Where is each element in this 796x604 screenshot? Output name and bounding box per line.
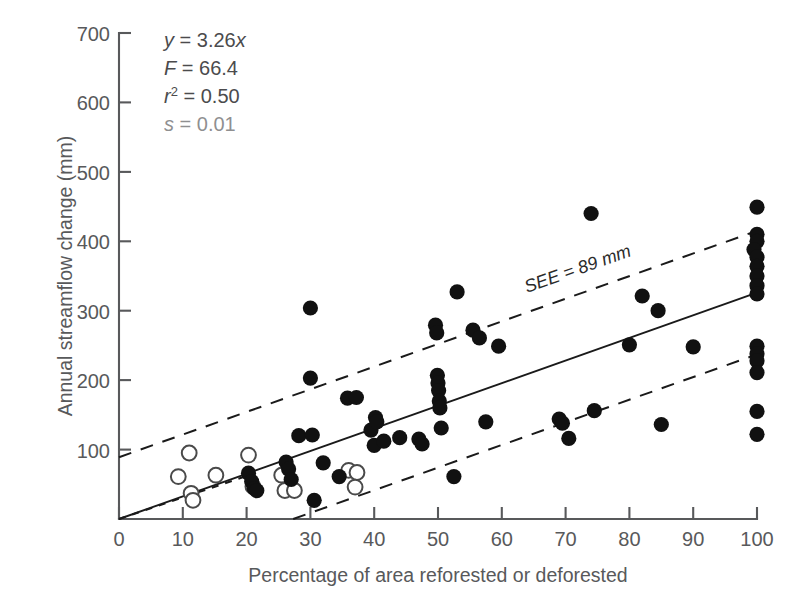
data-point [349, 390, 364, 405]
see-band-lower-line [293, 354, 757, 519]
stat-f: F = 66.4 [164, 57, 238, 79]
y-ticklabel-100: 100 [77, 440, 110, 462]
data-point [749, 200, 764, 215]
x-ticklabel-50: 50 [427, 528, 449, 550]
data-point [749, 404, 764, 419]
data-point [749, 427, 764, 442]
data-point [622, 337, 637, 352]
data-point [376, 434, 391, 449]
data-point [587, 403, 602, 418]
data-point [350, 465, 365, 480]
data-point [303, 371, 318, 386]
data-point [305, 427, 320, 442]
y-ticklabel-500: 500 [77, 162, 110, 184]
y-ticklabel-200: 200 [77, 370, 110, 392]
data-point [332, 469, 347, 484]
data-point [654, 417, 669, 432]
data-point [472, 330, 487, 345]
stats-annotation: y = 3.26x F = 66.4 r2 = 0.50 s = 0.01 [162, 29, 247, 135]
stat-significance: s = 0.01 [164, 113, 236, 135]
data-point [749, 286, 764, 301]
stat-r-squared: r2 = 0.50 [164, 84, 240, 108]
data-point [348, 480, 363, 495]
data-point [303, 300, 318, 315]
y-axis-title: Annual streamflow change (mm) [54, 136, 76, 417]
see-band-label: SEE = 89 mm [522, 241, 634, 297]
data-point [635, 288, 650, 303]
y-ticklabel-300: 300 [77, 301, 110, 323]
x-ticklabel-90: 90 [682, 528, 704, 550]
x-ticklabel-80: 80 [618, 528, 640, 550]
x-ticklabel-60: 60 [491, 528, 513, 550]
x-axis-ticks: 0 10 20 30 40 50 60 70 80 90 100 [113, 507, 773, 550]
data-point [651, 303, 666, 318]
data-point [171, 469, 186, 484]
stat-equation: y = 3.26x [162, 29, 247, 51]
x-ticklabel-100: 100 [740, 528, 773, 550]
x-ticklabel-10: 10 [172, 528, 194, 550]
data-point [291, 428, 306, 443]
data-point [241, 448, 256, 463]
data-point [429, 325, 444, 340]
y-ticklabel-700: 700 [77, 23, 110, 45]
data-point [415, 436, 430, 451]
data-point [478, 414, 493, 429]
x-axis-title: Percentage of area reforested or defores… [248, 564, 627, 586]
data-point [446, 469, 461, 484]
y-ticklabel-400: 400 [77, 231, 110, 253]
data-point [491, 339, 506, 354]
data-point [284, 472, 299, 487]
y-axis-ticks: 700 600 500 400 300 200 100 [77, 23, 131, 462]
data-point [749, 365, 764, 380]
x-ticklabel-20: 20 [235, 528, 257, 550]
data-point [555, 416, 570, 431]
data-point [209, 468, 224, 483]
y-ticklabel-600: 600 [77, 92, 110, 114]
x-ticklabel-0: 0 [113, 528, 124, 550]
data-point [307, 493, 322, 508]
x-ticklabel-70: 70 [554, 528, 576, 550]
data-point [316, 455, 331, 470]
series-deforested-filled-circles [241, 200, 765, 508]
data-point [584, 206, 599, 221]
data-point [186, 493, 201, 508]
data-point [434, 420, 449, 435]
data-point [249, 483, 264, 498]
chart-figure: 700 600 500 400 300 200 100 0 10 20 30 4 [0, 0, 796, 604]
data-point [561, 431, 576, 446]
data-point [686, 339, 701, 354]
data-point [182, 446, 197, 461]
data-point [450, 284, 465, 299]
scatter-plot-svg: 700 600 500 400 300 200 100 0 10 20 30 4 [0, 0, 796, 604]
x-ticklabel-40: 40 [363, 528, 385, 550]
data-point [432, 400, 447, 415]
x-ticklabel-30: 30 [299, 528, 321, 550]
data-point [369, 414, 384, 429]
data-point [392, 430, 407, 445]
